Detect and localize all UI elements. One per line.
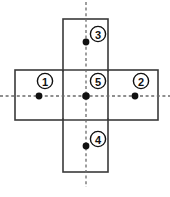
point-label-text-1: 1 [42,76,48,88]
point-dot-4 [83,143,90,150]
point-label-text-3: 3 [95,29,101,41]
point-label-text-2: 2 [138,76,144,88]
point-dot-1 [36,93,43,100]
cross-shape-diagram: 1 2 3 4 5 [0,0,170,197]
point-dot-2 [132,93,139,100]
point-label-text-5: 5 [95,76,101,88]
figure-canvas: 1 2 3 4 5 [0,0,170,197]
point-label-text-4: 4 [95,134,102,146]
point-dot-3 [83,39,90,46]
point-dot-5 [82,92,90,100]
